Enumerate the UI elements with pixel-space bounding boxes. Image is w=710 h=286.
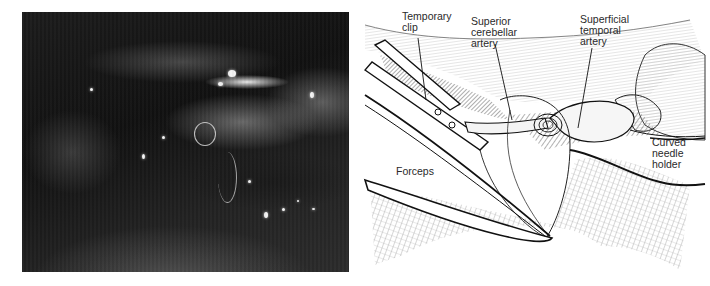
label-superficial-temporal-artery: Superficial temporal artery bbox=[580, 14, 629, 47]
light-reflection bbox=[282, 208, 285, 211]
light-reflection bbox=[90, 88, 93, 91]
label-superior-cerebellar-artery: Superior cerebellar artery bbox=[471, 16, 517, 49]
light-reflection bbox=[264, 212, 268, 218]
surgical-illustration: Temporary clip Superior cerebellar arter… bbox=[360, 0, 710, 286]
light-reflection bbox=[142, 154, 145, 159]
light-reflection bbox=[248, 180, 251, 183]
label-forceps: Forceps bbox=[396, 166, 434, 177]
light-reflection bbox=[218, 82, 223, 86]
light-reflection bbox=[162, 136, 165, 139]
light-reflection bbox=[312, 208, 315, 210]
light-reflection bbox=[310, 92, 314, 98]
suture-loop bbox=[194, 122, 216, 146]
suture-thread bbox=[218, 152, 237, 203]
label-curved-needle-holder: Curved needle holder bbox=[652, 137, 686, 170]
light-reflection bbox=[297, 200, 299, 202]
label-temporary-clip: Temporary clip bbox=[402, 11, 452, 33]
intraoperative-photo bbox=[22, 12, 349, 272]
light-reflection bbox=[228, 70, 236, 77]
surgical-figure: Temporary clip Superior cerebellar arter… bbox=[0, 0, 710, 286]
